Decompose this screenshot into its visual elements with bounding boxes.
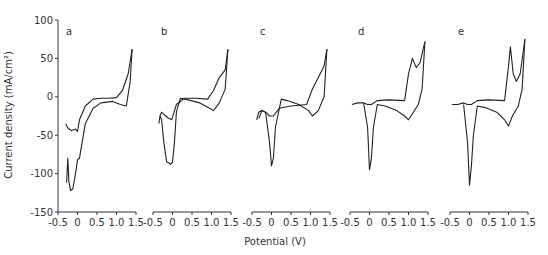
x-tick-label: 1.0 [303, 217, 319, 228]
x-tick-label: 1.5 [420, 217, 436, 228]
cv-curve [364, 42, 425, 170]
y-tick-label: 100 [34, 15, 53, 26]
x-tick-label: -0.5 [440, 217, 460, 228]
panel-d: -0.500.51.01.5d [340, 26, 436, 228]
y-axis-label: Current density (mA/cm²) [3, 51, 14, 179]
y-axis: 100500-50-100-150 [30, 15, 58, 218]
cv-curve [66, 49, 132, 131]
cv-curve [464, 39, 525, 185]
panel-c: -0.500.51.01.5c [242, 26, 338, 228]
panel-label: a [66, 26, 72, 37]
x-tick-label: 1.0 [109, 217, 125, 228]
cv-curve [257, 49, 327, 120]
x-tick-label: 0.5 [381, 217, 397, 228]
x-tick-label: -0.5 [242, 217, 262, 228]
panel-label: e [458, 26, 464, 37]
x-tick-label: 0 [169, 217, 175, 228]
panel-label: c [260, 26, 266, 37]
x-axis-label: Potential (V) [244, 236, 306, 247]
x-tick-label: 1.0 [204, 217, 220, 228]
cv-curve [452, 39, 525, 104]
y-tick-label: -50 [37, 130, 53, 141]
panel-b: -0.500.51.01.5b [143, 26, 239, 228]
x-tick-label: -0.5 [143, 217, 163, 228]
x-tick-label: 0 [268, 217, 274, 228]
x-tick-label: 0.5 [89, 217, 105, 228]
y-tick-label: 50 [40, 53, 53, 64]
y-tick-label: -100 [30, 168, 53, 179]
y-tick-label: -150 [30, 207, 53, 218]
panel-label: b [161, 26, 167, 37]
cyclic-voltammogram-figure: 100500-50-100-150 -0.500.51.01.5a-0.500.… [0, 0, 548, 255]
panel-label: d [358, 26, 364, 37]
x-tick-label: 0.5 [283, 217, 299, 228]
x-tick-label: 0 [74, 217, 80, 228]
cv-curve [159, 49, 228, 124]
x-tick-label: 1.5 [322, 217, 338, 228]
cv-curve [160, 49, 228, 164]
panels: -0.500.51.01.5a-0.500.51.01.5b-0.500.51.… [48, 26, 536, 228]
cv-curve [352, 42, 425, 105]
x-tick-label: -0.5 [340, 217, 360, 228]
x-tick-label: 0.5 [481, 217, 497, 228]
panel-e: -0.500.51.01.5e [440, 26, 536, 228]
y-tick-label: 0 [47, 91, 53, 102]
x-tick-label: 0.5 [184, 217, 200, 228]
cv-curve [259, 49, 327, 166]
panel-a: -0.500.51.01.5a [48, 26, 144, 228]
x-tick-label: 1.5 [520, 217, 536, 228]
x-tick-label: -0.5 [48, 217, 68, 228]
x-tick-label: 0 [466, 217, 472, 228]
cv-curve [67, 49, 133, 190]
x-tick-label: 1.5 [223, 217, 239, 228]
x-tick-label: 1.0 [501, 217, 517, 228]
x-tick-label: 0 [366, 217, 372, 228]
x-tick-label: 1.5 [128, 217, 144, 228]
x-tick-label: 1.0 [401, 217, 417, 228]
